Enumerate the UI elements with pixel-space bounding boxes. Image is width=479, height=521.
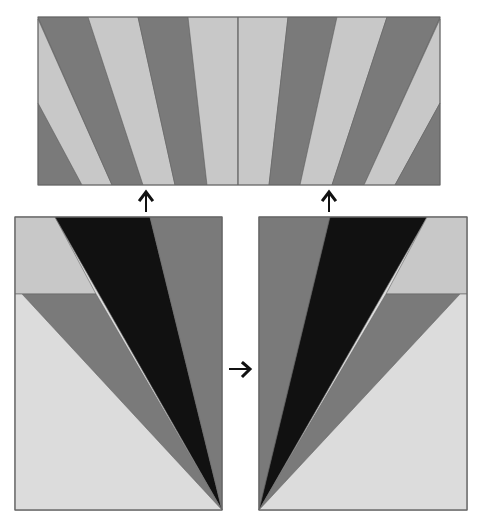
- right-blade-unit: [259, 217, 467, 510]
- assembled-starburst-panel: [38, 17, 440, 185]
- up-arrow-left-icon: [140, 192, 152, 211]
- quilt-diagram: [0, 0, 479, 521]
- right-arrow-middle-icon: [230, 363, 250, 376]
- up-arrow-right-icon: [323, 192, 335, 211]
- left-blade-unit: [15, 217, 222, 510]
